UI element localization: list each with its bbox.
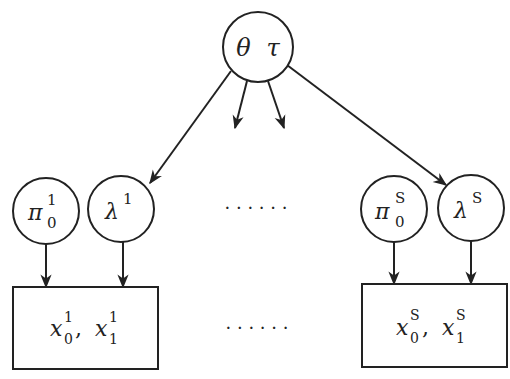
label-tau: τ [266, 34, 280, 62]
label-x0-sub: 0 [64, 331, 73, 347]
graphical-model-diagram: θ τ π 1 0 λ 1 x 1 0 , x 1 1 · · · · · · … [0, 0, 510, 379]
label-x0-sup: S [410, 307, 420, 323]
box-x-S: x S 0 , x S 1 [362, 284, 507, 367]
label-sep: , [422, 315, 429, 340]
label-pi-sub: 0 [47, 214, 57, 232]
node-theta-tau: θ τ [223, 12, 293, 82]
svg-text:θ τ: θ τ [236, 34, 280, 62]
edge-theta-to-lambda-S [287, 65, 446, 185]
label-lambda: λ [104, 199, 119, 224]
label-x1-sub: 1 [109, 331, 118, 347]
label-x0-sub: 0 [410, 330, 419, 346]
label-pi-sub: 0 [395, 213, 405, 231]
label-x1-sub: 1 [456, 330, 465, 346]
label-theta: θ [236, 34, 251, 62]
label-lambda-sup: S [472, 189, 482, 207]
label-pi: π [374, 199, 390, 224]
label-x1: x [95, 316, 108, 341]
ellipsis-bottom: · · · · · · [226, 317, 289, 338]
label-x0-sup: 1 [64, 309, 73, 325]
label-lambda: λ [453, 198, 468, 223]
edge-theta-to-lambda-1 [150, 71, 231, 183]
label-x1: x [442, 315, 455, 340]
node-lambda-S: λ S [438, 175, 504, 241]
label-x1-sup: S [456, 307, 466, 323]
label-pi-sup: 1 [47, 191, 57, 209]
label-pi: π [27, 200, 43, 225]
edges [46, 65, 471, 287]
node-pi-0-S: π S 0 [361, 176, 427, 242]
label-lambda-sup: 1 [123, 190, 133, 208]
ellipsis-top: · · · · · · [225, 197, 288, 218]
box-x-1: x 1 0 , x 1 1 [13, 287, 158, 369]
label-pi-sup: S [395, 189, 405, 207]
label-x0: x [50, 316, 63, 341]
node-lambda-1: λ 1 [88, 176, 154, 242]
group-1: π 1 0 λ 1 x 1 0 , x 1 1 [13, 176, 158, 369]
node-pi-0-1: π 1 0 [13, 178, 79, 244]
label-sep: , [75, 316, 82, 341]
label-x0: x [396, 315, 409, 340]
group-S: π S 0 λ S x S 0 , x S 1 [361, 175, 507, 367]
edge-theta-to-elided-right [268, 81, 284, 128]
label-x1-sup: 1 [109, 309, 118, 325]
edge-theta-to-elided-left [235, 81, 247, 128]
